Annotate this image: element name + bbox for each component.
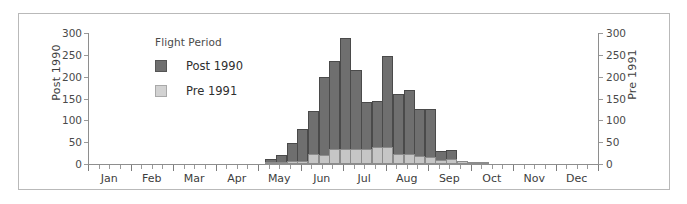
y-tick-mark-right-150 [599,99,603,100]
x-tick-oct-1 [481,165,482,169]
x-tick-nov-0 [513,165,514,171]
x-tick-oct-2 [492,165,493,169]
y-tick-label-left-250: 250 [52,50,82,60]
y-tick-label-right-100: 100 [606,115,636,125]
y-tick-mark-right-200 [599,77,603,78]
x-tick-jan-0 [88,165,89,171]
bar-pre-1991-17 [446,159,457,164]
bar-pre-1991-18 [457,161,468,164]
y-tick-label-left-150: 150 [52,94,82,104]
bar-pre-1991-20 [478,162,489,164]
legend-swatch-post-1990-icon [155,60,167,72]
y-tick-mark-left-100 [84,120,88,121]
bar-post-1990-7 [340,38,351,164]
x-tick-jul-0 [343,165,344,171]
y-tick-mark-right-50 [599,142,603,143]
x-tick-dec-1 [566,165,567,169]
y-tick-label-right-0: 0 [606,159,636,169]
bar-pre-1991-19 [467,162,478,164]
bar-pre-1991-8 [350,149,361,164]
x-label-aug: Aug [385,172,429,185]
bar-pre-1991-2 [287,161,298,164]
bar-post-1990-13 [404,90,415,164]
x-tick-jan-3 [120,165,121,169]
y-tick-mark-left-300 [84,33,88,34]
x-tick-dec-2 [577,165,578,169]
x-tick-apr-1 [226,165,227,169]
x-tick-apr-2 [237,165,238,169]
x-tick-sep-2 [449,165,450,169]
y-tick-label-right-50: 50 [606,137,636,147]
x-tick-sep-3 [460,165,461,169]
x-tick-may-2 [279,165,280,169]
x-label-jun: Jun [300,172,344,185]
x-tick-jun-3 [332,165,333,169]
x-tick-feb-3 [162,165,163,169]
legend-item-pre-1991[interactable]: Pre 1991 [155,84,243,98]
y-tick-mark-right-300 [599,33,603,34]
y-tick-label-right-150: 150 [606,94,636,104]
x-tick-mar-1 [184,165,185,169]
legend-label-post-1990: Post 1990 [186,59,243,73]
x-label-mar: Mar [172,172,216,185]
x-tick-oct-3 [502,165,503,169]
y-tick-label-left-100: 100 [52,115,82,125]
bar-pre-1991-0 [265,162,276,164]
x-tick-aug-3 [417,165,418,169]
bar-pre-1991-14 [414,156,425,164]
x-tick-may-0 [258,165,259,171]
bar-post-1990-15 [425,109,436,164]
legend-swatch-pre-1991-icon [155,85,167,97]
y-tick-mark-right-250 [599,55,603,56]
y-tick-label-left-300: 300 [52,28,82,38]
x-label-oct: Oct [470,172,514,185]
x-axis-labels: JanFebMarAprMayJunJulAugSepOctNovDec [88,172,600,186]
x-tick-feb-2 [152,165,153,169]
x-tick-apr-0 [216,165,217,171]
bar-pre-1991-15 [425,157,436,164]
x-tick-jan-1 [99,165,100,169]
x-tick-feb-0 [131,165,132,171]
legend-label-pre-1991: Pre 1991 [186,84,237,98]
y-tick-mark-right-100 [599,120,603,121]
x-tick-oct-0 [471,165,472,171]
x-tick-may-1 [269,165,270,169]
x-tick-feb-1 [141,165,142,169]
legend: Flight Period Post 1990 Pre 1991 [155,36,243,109]
bar-pre-1991-5 [319,155,330,164]
x-label-feb: Feb [130,172,174,185]
figure: Post 1990 Pre 1991 300250200150100500 30… [0,0,687,204]
x-tick-aug-2 [407,165,408,169]
bar-post-1990-3 [297,129,308,164]
x-label-apr: Apr [215,172,259,185]
bar-pre-1991-16 [435,160,446,164]
x-tick-nov-2 [534,165,535,169]
y-tick-label-left-50: 50 [52,137,82,147]
x-label-may: May [257,172,301,185]
legend-title: Flight Period [155,36,243,48]
x-tick-jul-3 [375,165,376,169]
x-tick-nov-1 [524,165,525,169]
x-label-dec: Dec [555,172,599,185]
y-tick-mark-left-150 [84,99,88,100]
bar-pre-1991-7 [340,149,351,164]
x-axis-ticks [88,165,600,171]
y-tick-mark-left-250 [84,55,88,56]
x-tick-nov-3 [545,165,546,169]
bar-pre-1991-4 [308,154,319,164]
bar-pre-1991-13 [404,154,415,164]
x-tick-jul-2 [364,165,365,169]
bar-pre-1991-12 [393,154,404,164]
y-tick-label-right-300: 300 [606,28,636,38]
x-tick-jun-0 [301,165,302,171]
y-tick-label-right-200: 200 [606,72,636,82]
bar-pre-1991-6 [329,149,340,164]
bar-pre-1991-1 [276,162,287,164]
x-label-jul: Jul [342,172,386,185]
bar-post-1990-5 [319,77,330,164]
legend-item-post-1990[interactable]: Post 1990 [155,59,243,73]
bar-pre-1991-3 [297,161,308,164]
x-tick-mar-2 [194,165,195,169]
x-label-sep: Sep [427,172,471,185]
y-tick-label-left-0: 0 [52,159,82,169]
